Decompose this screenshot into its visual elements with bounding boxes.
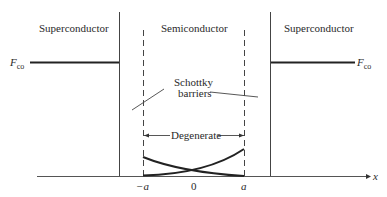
schottky-leader-left <box>132 89 164 110</box>
x-axis-arrowhead-icon <box>366 174 371 179</box>
schottky-leader-right <box>210 92 258 97</box>
axis-tick-neg-a: −a <box>136 181 149 192</box>
axis-tick-a: a <box>241 181 247 192</box>
degenerate-label: Degenerate <box>171 130 221 141</box>
right-fermi-symbol: F <box>357 56 364 68</box>
left-region-label: Superconductor <box>39 23 109 34</box>
left-fermi-symbol: F <box>10 56 17 68</box>
degenerate-arrowhead-left-icon <box>144 134 149 138</box>
right-fermi-label: Fco <box>357 57 371 68</box>
degenerate-arrowhead-right-icon <box>239 134 244 138</box>
decreasing-curve <box>143 157 244 176</box>
left-fermi-label: Fco <box>10 57 24 68</box>
axis-tick-zero: 0 <box>191 181 197 192</box>
left-fermi-subscript: co <box>17 62 25 71</box>
right-fermi-subscript: co <box>364 62 372 71</box>
middle-region-label: Semiconductor <box>161 23 228 34</box>
x-axis-label: x <box>373 171 378 182</box>
schottky-label-line2: barriers <box>178 88 212 99</box>
right-region-label: Superconductor <box>284 23 354 34</box>
superconductor-semiconductor-junction-diagram: Superconductor Semiconductor Superconduc… <box>0 0 387 197</box>
